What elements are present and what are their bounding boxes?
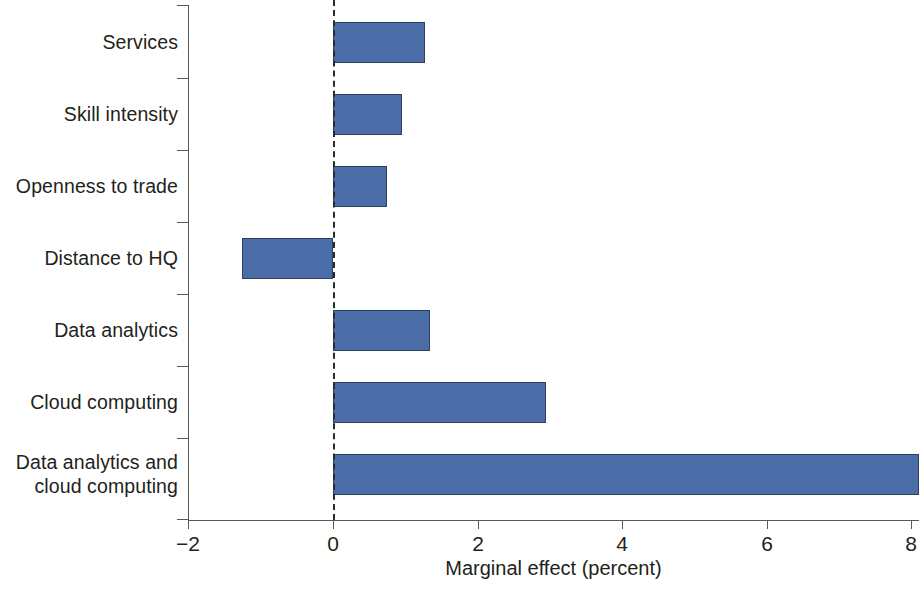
bar-openness-to-trade (333, 166, 387, 207)
x-axis-ticklabel: 8 (881, 531, 919, 557)
y-axis-tick (177, 222, 188, 223)
x-axis-ticklabel: 0 (303, 531, 363, 557)
y-axis-label-skill-intensity: Skill intensity (0, 102, 178, 126)
x-axis-ticklabel: −2 (158, 531, 218, 557)
x-axis-ticklabel: 4 (592, 531, 652, 557)
x-axis-tick (622, 520, 623, 529)
x-axis-title: Marginal effect (percent) (188, 556, 919, 580)
x-axis-tick (333, 520, 334, 529)
y-axis-tick (177, 366, 188, 367)
y-axis-tick (177, 519, 188, 520)
y-axis-label-data-analytics-and-cloud-computing: Data analytics and cloud computing (0, 450, 178, 498)
y-axis-tick (177, 438, 188, 439)
y-axis-tick (177, 294, 188, 295)
x-axis-ticklabel: 2 (448, 531, 508, 557)
bar-data-analytics-and-cloud-computing (333, 454, 919, 495)
x-axis-tick (767, 520, 768, 529)
y-axis-tick (177, 78, 188, 79)
y-axis-label-services: Services (0, 30, 178, 54)
y-axis-tick (177, 150, 188, 151)
bar-skill-intensity (333, 94, 402, 135)
y-axis-label-distance-to-hq: Distance to HQ (0, 246, 178, 270)
x-axis-tick (188, 520, 189, 529)
x-axis-tick (478, 520, 479, 529)
y-axis-label-openness-to-trade: Openness to trade (0, 174, 178, 198)
x-axis-ticklabel: 6 (737, 531, 797, 557)
y-axis-label-cloud-computing: Cloud computing (0, 390, 178, 414)
zero-reference-line (333, 0, 335, 520)
bar-data-analytics (333, 310, 430, 351)
plot-area: −2 0 2 4 6 8 (188, 0, 919, 520)
bar-services (333, 22, 425, 63)
bar-chart: Services Skill intensity Openness to tra… (0, 0, 919, 592)
bar-cloud-computing (333, 382, 546, 423)
bar-distance-to-hq (242, 238, 333, 279)
y-axis-tick (177, 5, 188, 6)
x-axis-tick (911, 520, 912, 529)
x-axis-line (188, 520, 919, 521)
y-axis-line (188, 5, 189, 520)
y-axis-label-data-analytics: Data analytics (0, 318, 178, 342)
y-axis-category-labels: Services Skill intensity Openness to tra… (0, 0, 178, 520)
